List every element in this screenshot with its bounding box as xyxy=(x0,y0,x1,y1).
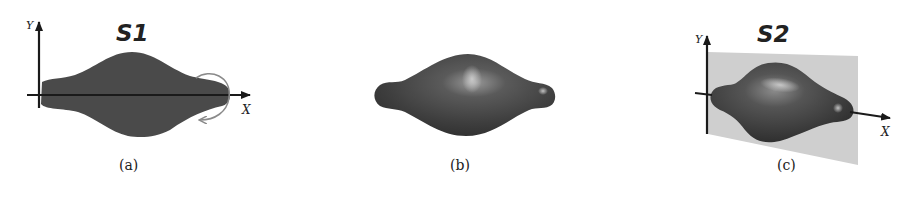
panel-c: Y X S2 (c) xyxy=(695,21,890,173)
caption-c: (c) xyxy=(777,157,796,173)
panel-title-s2: S2 xyxy=(757,21,790,47)
y-axis-label: Y xyxy=(695,33,704,46)
specular-highlight-end xyxy=(833,103,843,113)
panel-title-s1: S1 xyxy=(116,20,149,46)
x-axis-label: X xyxy=(241,103,251,117)
revolved-3d-shape xyxy=(374,54,555,136)
caption-b: (b) xyxy=(450,157,470,173)
specular-highlight-end xyxy=(538,87,548,95)
specular-highlight xyxy=(462,65,482,93)
y-axis-label: Y xyxy=(26,19,35,32)
figure: Y X S1 (a) (b) Y X S2 (c) xyxy=(0,0,918,197)
x-axis-label: X xyxy=(880,125,890,139)
panel-b: (b) xyxy=(374,54,555,173)
caption-a: (a) xyxy=(119,157,138,173)
panel-a: Y X S1 (a) xyxy=(26,19,251,173)
